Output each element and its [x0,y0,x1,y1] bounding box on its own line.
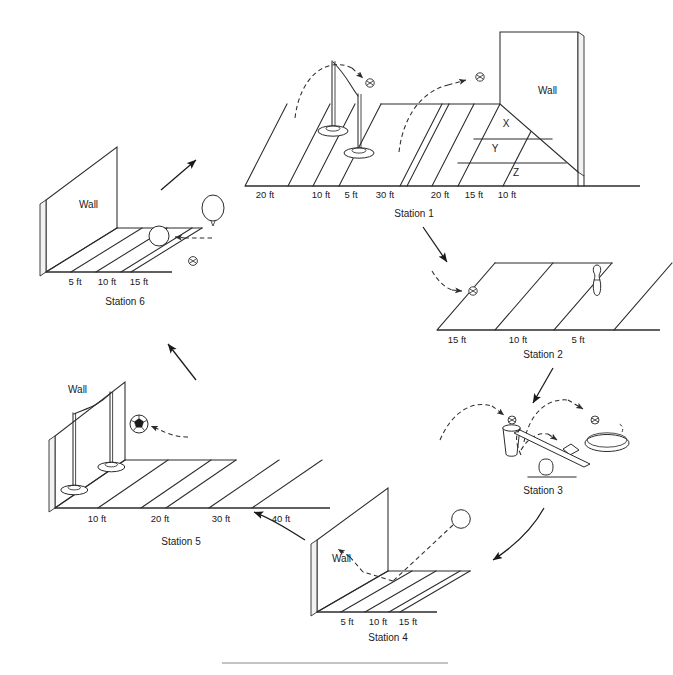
distance-label: 10 ft [98,276,117,287]
station-2-bowling-pin [593,265,600,296]
station-3-trajectory-left [440,404,492,440]
distance-label: 20 ft [431,189,450,200]
station-5-trajectory-head [151,426,158,429]
distance-label: 20 ft [256,189,275,200]
station-2-ball [469,287,477,295]
distance-label: 10 ft [498,189,517,200]
station-1-pole-tall [318,61,348,136]
station-3-trajectory-left-head [492,406,504,415]
station-1-ball-right [476,73,484,81]
station-5-name: Station 5 [161,536,201,547]
station-6-balloon [202,195,224,226]
zone-label-x: X [503,118,510,129]
station-1-wall-label: Wall [538,85,557,96]
station-1-trajectory-left [295,65,352,118]
station-1-ball-left [366,79,374,87]
distance-label: 30 ft [212,513,231,524]
station-3-name: Station 3 [523,485,563,496]
station-2-distance-labels: 15 ft 10 ft 5 ft [448,334,585,345]
distance-label: 10 ft [88,513,107,524]
distance-label: 5 ft [344,189,358,200]
station-3-hoop [585,424,629,452]
station-6-name: Station 6 [105,296,145,307]
station-3-cup [503,425,521,456]
station-4-trajectory-in [393,525,453,581]
station-circuit-diagram: X Y Z Wall [0,0,673,675]
station-1-group: X Y Z Wall [245,32,640,219]
distance-label: 15 ft [465,189,484,200]
distance-label: 15 ft [130,276,149,287]
station-2-trajectory [432,271,452,290]
flow-arrow-2-to-3 [533,368,553,403]
station-2-group: 15 ft 10 ft 5 ft Station 2 [432,263,672,360]
station-1-trajectory-right [399,85,448,152]
station-1-distance-labels: 20 ft 10 ft 5 ft 30 ft 20 ft 15 ft 10 ft [256,189,517,200]
station-6-small-ball [189,257,198,266]
station-1-name: Station 1 [394,208,434,219]
distance-label: 10 ft [312,189,331,200]
station-1-trajectory-left-head [352,68,363,78]
flow-arrow-1-to-2 [423,227,447,262]
station-3-seesaw [514,430,590,477]
distance-label: 5 ft [340,616,354,627]
distance-label: 5 ft [68,276,82,287]
station-5-wall-label: Wall [68,384,87,395]
distance-label: 30 ft [376,189,395,200]
station-4-name: Station 4 [368,632,408,643]
station-5-soccer-ball [130,415,148,433]
station-4-wall-label: Wall [332,553,351,564]
flow-arrow-5-to-6 [168,344,196,380]
zone-label-z: Z [513,167,519,178]
station-6-wall-label: Wall [79,199,98,210]
distance-label: 15 ft [399,616,418,627]
station-6-group: Wall 5 ft 10 ft 15 ft Station 6 [40,147,224,307]
station-6-distance-labels: 5 ft 10 ft 15 ft [68,276,148,287]
flow-arrow-3-to-4 [493,508,544,560]
zone-label-y: Y [492,143,499,154]
station-2-name: Station 2 [523,349,563,360]
diagram-root: X Y Z Wall [0,0,673,675]
station-3-group: Station 3 [440,400,629,496]
station-5-group: Wall 10 ft 20 ft 30 ft 40 ft Station 5 [49,382,330,547]
station-3-trajectory-beanbag-head [548,434,557,440]
station-3-ball-right [591,416,599,424]
station-1-trajectory-right-head [448,80,466,85]
distance-label: 15 ft [448,334,467,345]
distance-label: 10 ft [369,616,388,627]
station-4-group: Wall 5 ft 10 ft 15 ft Station 4 [311,488,470,643]
station-2-trajectory-head [452,290,462,291]
distance-label: 10 ft [509,334,528,345]
distance-label: 20 ft [151,513,170,524]
station-3-trajectory-right-head [568,400,583,409]
station-5-trajectory [158,429,188,437]
flow-arrow-6-to-1 [161,160,196,190]
distance-label: 5 ft [571,334,585,345]
station-4-distance-labels: 5 ft 10 ft 15 ft [340,616,417,627]
station-4-ball [452,510,471,529]
station-6-ball [149,226,169,246]
station-3-ball-left [508,416,516,424]
